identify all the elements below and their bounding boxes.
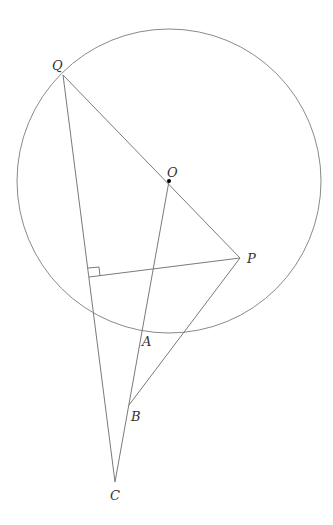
label-C: C	[110, 488, 120, 503]
label-Q: Q	[52, 58, 63, 73]
segment-PF	[89, 258, 240, 277]
diagram-canvas: Q O P A B C	[0, 0, 333, 525]
label-P: P	[246, 251, 256, 266]
label-O: O	[167, 165, 178, 180]
geometry-diagram: Q O P A B C	[0, 0, 333, 525]
right-angle-marker	[88, 267, 100, 276]
segment-QP	[63, 75, 240, 258]
segment-OC	[115, 181, 169, 482]
segment-QC	[63, 75, 115, 482]
label-B: B	[130, 409, 141, 424]
label-A: A	[141, 334, 151, 349]
